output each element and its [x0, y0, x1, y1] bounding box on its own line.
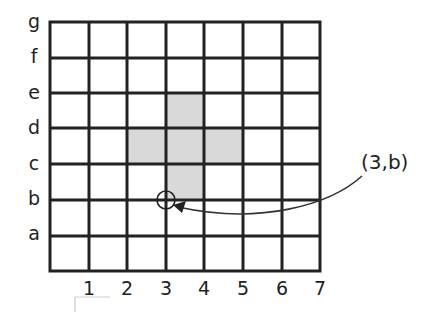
- row-label-e: e: [26, 83, 42, 102]
- row-label-c: c: [26, 154, 42, 173]
- coordinate-grid-diagram: g f e d c b a 1 2 3 4 5 6 7 (3,b): [0, 0, 437, 321]
- col-label-1: 1: [79, 279, 99, 298]
- row-label-a: a: [26, 224, 42, 243]
- col-label-5: 5: [233, 279, 253, 298]
- callout-label: (3,b): [361, 150, 408, 174]
- row-label-f: f: [26, 47, 42, 66]
- callout-arrow: [178, 176, 362, 214]
- row-label-d: d: [26, 118, 42, 137]
- shaded-region: [127, 93, 243, 200]
- col-label-6: 6: [272, 279, 292, 298]
- col-label-2: 2: [117, 279, 137, 298]
- col-label-7: 7: [310, 279, 330, 298]
- col-label-3: 3: [156, 279, 176, 298]
- row-label-b: b: [26, 189, 42, 208]
- row-label-g: g: [26, 12, 42, 31]
- col-label-4: 4: [194, 279, 214, 298]
